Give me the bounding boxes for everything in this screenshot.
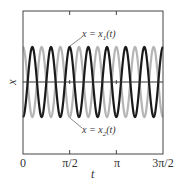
annotation-leader-x2 [70,118,82,128]
annotation-x2-lhs: x = x [82,124,103,135]
annotation-x1: x = x1(t) [82,29,116,42]
annotation-x1-lhs: x = x [82,28,103,39]
annotation-leader-x1 [70,37,82,46]
annotation-x2-rhs: (t) [106,124,115,135]
x-axis-label: t [91,168,94,180]
x-tick-label-0: 0 [20,157,26,169]
x-tick-label-pi: π [114,157,120,169]
y-axis-label: x [6,79,18,84]
x-tick-label-3pi-half: 3π/2 [152,157,173,169]
annotation-x1-rhs: (t) [106,28,115,39]
annotation-x2: x = x2(t) [82,125,116,138]
x-tick-label-pi-half: π/2 [62,157,77,169]
